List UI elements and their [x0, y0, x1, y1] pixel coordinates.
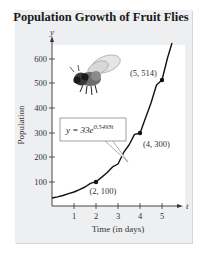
- x-tick-label: 1: [72, 211, 76, 221]
- data-point: [138, 131, 142, 135]
- y-axis-label: Population: [16, 105, 26, 145]
- y-tick-label: 100: [34, 177, 47, 187]
- point-label: (4, 300): [143, 139, 170, 149]
- y-axis-var: y: [49, 27, 54, 37]
- x-tick-label: 2: [94, 211, 98, 221]
- data-point: [94, 180, 98, 184]
- data-point: [160, 78, 164, 82]
- x-tick-label: 5: [160, 211, 164, 221]
- x-axis-label: Time (in days): [92, 224, 145, 234]
- y-tick-label: 200: [34, 152, 47, 162]
- point-label: (5, 514): [130, 68, 157, 78]
- point-label: (2, 100): [90, 186, 117, 196]
- chart-svg: y t 600 500 400 300 200 100 1 2 3 4 5 Ti…: [0, 0, 202, 259]
- y-tick-label: 300: [34, 128, 47, 138]
- y-tick-label: 500: [34, 78, 47, 88]
- y-tick-label: 600: [34, 54, 47, 64]
- x-tick-label: 4: [138, 211, 143, 221]
- y-tick-label: 400: [34, 103, 47, 113]
- x-tick-label: 3: [116, 211, 120, 221]
- x-axis-var: t: [186, 201, 189, 211]
